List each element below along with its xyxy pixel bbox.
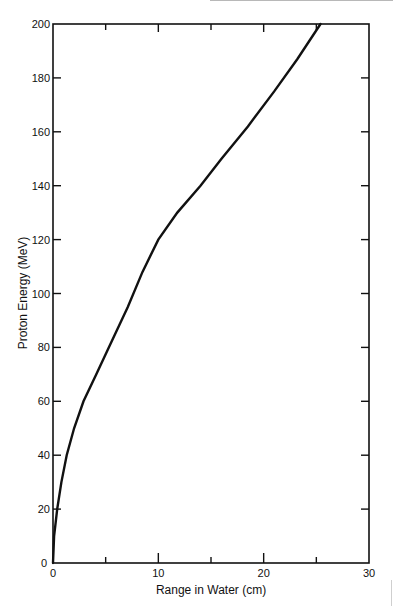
y-axis-ticks: 020406080100120140160180200	[32, 18, 369, 569]
x-tick-label: 10	[152, 567, 164, 579]
y-tick-label: 20	[38, 503, 50, 515]
x-tick-label: 0	[50, 567, 56, 579]
y-tick-label: 140	[32, 180, 50, 192]
x-axis-ticks: 0102030	[50, 24, 375, 579]
y-tick-label: 80	[38, 341, 50, 353]
y-axis-title: Proton Energy (MeV)	[16, 237, 30, 350]
plot-frame	[53, 24, 369, 563]
scan-right-edge	[391, 580, 392, 606]
x-tick-label: 30	[363, 567, 375, 579]
y-tick-label: 160	[32, 126, 50, 138]
y-tick-label: 60	[38, 395, 50, 407]
range-energy-chart: 020406080100120140160180200 0102030 Rang…	[0, 0, 393, 608]
y-tick-label: 40	[38, 449, 50, 461]
energy-curve	[53, 24, 321, 563]
x-tick-label: 20	[258, 567, 270, 579]
y-tick-label: 180	[32, 72, 50, 84]
y-tick-label: 100	[32, 288, 50, 300]
y-tick-label: 200	[32, 18, 50, 30]
x-axis-title: Range in Water (cm)	[156, 583, 266, 597]
y-tick-label: 0	[41, 557, 47, 569]
y-tick-label: 120	[32, 234, 50, 246]
